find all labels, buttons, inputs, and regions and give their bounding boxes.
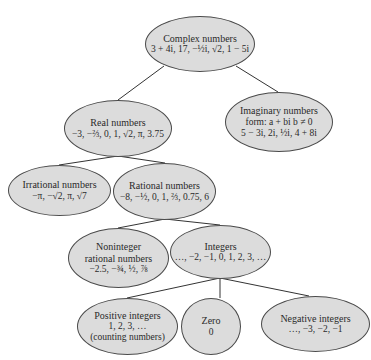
node-title: Rational numbers <box>129 180 200 192</box>
node-title-2: rational numbers <box>85 253 152 265</box>
node-integers: Integers …, −2, −1, 0, 1, 2, 3, … <box>170 225 271 279</box>
node-imaginary-numbers: Imaginary numbers form: a + bi b ≠ 0 5 −… <box>225 92 333 152</box>
node-title: Integers <box>204 241 236 253</box>
node-examples: …, −2, −1, 0, 1, 2, 3, … <box>175 252 266 263</box>
node-examples: …, −3, −2, −1 <box>288 324 342 335</box>
node-title: Negative integers <box>280 313 350 325</box>
node-title: Imaginary numbers <box>240 105 318 117</box>
node-noninteger-rational-numbers: Noninteger rational numbers −2.5, −¾, ½,… <box>68 228 169 288</box>
node-zero: Zero 0 <box>181 298 241 355</box>
node-rational-numbers: Rational numbers −8, −½, 0, 1, ⅔, 0.75, … <box>113 163 216 220</box>
node-examples: −8, −½, 0, 1, ⅔, 0.75, 6 <box>120 192 209 203</box>
node-examples: 1, 2, 3, … <box>109 321 147 332</box>
edge-rational-integers <box>165 219 220 225</box>
edge-rational-noninteger <box>118 219 165 228</box>
node-title: Irrational numbers <box>22 179 96 191</box>
node-title: Noninteger <box>96 241 141 253</box>
edge-complex-real <box>118 66 164 100</box>
node-positive-integers: Positive integers 1, 2, 3, … (counting n… <box>77 298 178 355</box>
node-note: (counting numbers) <box>90 332 165 343</box>
node-examples: −3, −⅔, 0, 1, √2, π, 3.75 <box>72 129 164 140</box>
node-title: Real numbers <box>90 117 145 129</box>
node-examples: 3 + 4i, 17, −½i, √2, 1 − 5i <box>151 44 249 55</box>
node-examples: −π, −√2, π, √7 <box>32 191 87 202</box>
edge-integers-negative <box>220 278 309 296</box>
node-title: Zero <box>202 315 221 327</box>
node-title: Complex numbers <box>163 33 237 45</box>
node-real-numbers: Real numbers −3, −⅔, 0, 1, √2, π, 3.75 <box>64 100 172 157</box>
node-complex-numbers: Complex numbers 3 + 4i, 17, −½i, √2, 1 −… <box>145 16 255 72</box>
node-form: form: a + bi b ≠ 0 <box>245 117 312 128</box>
node-title: Positive integers <box>94 310 160 322</box>
node-examples: −2.5, −¾, ½, ⅞ <box>89 264 147 275</box>
node-negative-integers: Negative integers …, −3, −2, −1 <box>261 296 370 352</box>
node-examples: 5 − 3i, 2i, ½i, 4 + 8i <box>241 128 317 139</box>
edge-real-irrational <box>59 156 118 165</box>
edge-complex-imaginary <box>236 66 278 92</box>
node-examples: 0 <box>209 327 214 338</box>
edge-real-rational <box>118 156 165 163</box>
node-irrational-numbers: Irrational numbers −π, −√2, π, √7 <box>8 165 111 216</box>
